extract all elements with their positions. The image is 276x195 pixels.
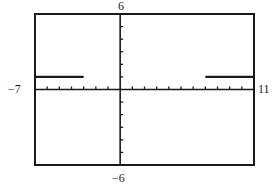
graph-window — [0, 0, 276, 195]
x-min-label: −7 — [8, 83, 21, 95]
y-min-label: −6 — [112, 172, 125, 184]
y-max-label: 6 — [118, 0, 124, 12]
x-max-label: 11 — [258, 83, 270, 95]
